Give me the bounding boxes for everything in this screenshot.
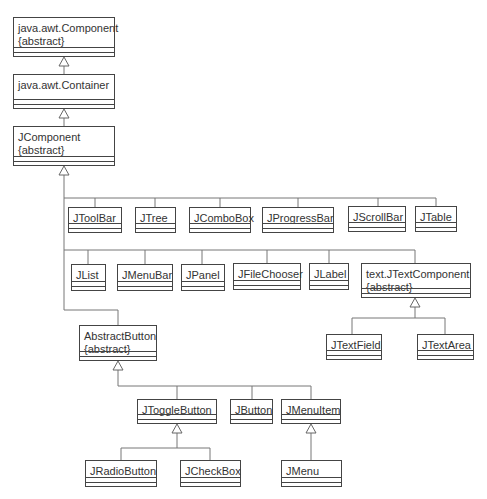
operations-divider xyxy=(349,227,405,228)
attributes-divider xyxy=(14,156,114,157)
operations-divider xyxy=(136,228,175,229)
inheritance-arrow-icon xyxy=(59,166,69,175)
operations-divider xyxy=(362,293,470,294)
class-box-jmenu: JMenu xyxy=(281,460,342,487)
class-name: JMenuItem xyxy=(286,404,338,417)
operations-divider xyxy=(416,227,456,228)
class-box-jcombobox: JComboBox xyxy=(189,207,251,233)
attributes-divider xyxy=(181,477,240,478)
inheritance-arrow-icon xyxy=(172,424,182,433)
class-name: java.awt.Component{abstract} xyxy=(18,22,112,48)
attributes-divider xyxy=(310,280,348,281)
operations-divider xyxy=(181,482,240,483)
operations-divider xyxy=(190,228,250,229)
class-name: JComponent{abstract} xyxy=(18,131,112,157)
attributes-divider xyxy=(263,223,333,224)
class-box-container: java.awt.Container xyxy=(13,74,115,109)
inheritance-arrow-icon xyxy=(410,298,420,307)
class-box-jscrollbar: JScrollBar xyxy=(348,206,406,232)
operations-divider xyxy=(86,482,156,483)
class-box-jfilechooser: JFileChooser xyxy=(233,263,301,290)
class-name: JButton xyxy=(235,404,270,417)
operations-divider xyxy=(14,104,114,105)
class-name: JToggleButton xyxy=(142,404,214,417)
operations-divider xyxy=(72,286,105,287)
class-name: text.JTextComponent{abstract} xyxy=(366,268,468,294)
operations-divider xyxy=(231,419,272,420)
attributes-divider xyxy=(138,414,216,415)
class-box-jradiobutton: JRadioButton xyxy=(85,460,157,487)
class-box-jtable: JTable xyxy=(415,206,457,232)
class-box-jtogglebutton: JToggleButton xyxy=(137,399,217,424)
operations-divider xyxy=(14,52,114,53)
class-box-jtree: JTree xyxy=(135,207,176,233)
operations-divider xyxy=(263,228,333,229)
attributes-divider xyxy=(69,223,121,224)
class-box-jtextcomponent: text.JTextComponent{abstract} xyxy=(361,263,471,298)
inheritance-arrow-icon xyxy=(59,109,69,118)
operations-divider xyxy=(69,228,121,229)
class-name: java.awt.Container xyxy=(18,79,112,92)
attributes-divider xyxy=(190,223,250,224)
class-box-jcheckbox: JCheckBox xyxy=(180,460,241,487)
attributes-divider xyxy=(86,477,156,478)
attributes-divider xyxy=(231,414,272,415)
attributes-divider xyxy=(118,281,172,282)
operations-divider xyxy=(327,355,381,356)
class-box-jprogressbar: JProgressBar xyxy=(262,207,334,233)
class-box-jcomponent: JComponent{abstract} xyxy=(13,126,115,166)
attributes-divider xyxy=(72,281,105,282)
operations-divider xyxy=(310,285,348,286)
operations-divider xyxy=(118,286,172,287)
attributes-divider xyxy=(418,350,473,351)
class-box-component: java.awt.Component{abstract} xyxy=(13,17,115,57)
attributes-divider xyxy=(282,414,340,415)
attributes-divider xyxy=(182,281,224,282)
attributes-divider xyxy=(362,288,470,289)
inheritance-arrow-icon xyxy=(113,361,123,370)
operations-divider xyxy=(138,419,216,420)
operations-divider xyxy=(14,161,114,162)
class-box-jtoolbar: JToolBar xyxy=(68,207,122,233)
operations-divider xyxy=(80,356,156,357)
operations-divider xyxy=(182,286,224,287)
class-box-jtextfield: JTextField xyxy=(326,334,382,360)
class-stereotype: {abstract} xyxy=(84,343,154,356)
operations-divider xyxy=(282,419,340,420)
operations-divider xyxy=(282,482,341,483)
inheritance-arrow-icon xyxy=(306,424,316,433)
attributes-divider xyxy=(14,99,114,100)
inheritance-arrow-icon xyxy=(59,57,69,66)
attributes-divider xyxy=(80,351,156,352)
class-box-jlabel: JLabel xyxy=(309,263,349,290)
class-box-jpanel: JPanel xyxy=(181,264,225,291)
class-box-jtextarea: JTextArea xyxy=(417,334,474,360)
attributes-divider xyxy=(234,280,300,281)
class-box-jlist: JList xyxy=(71,264,106,291)
class-name: AbstractButton{abstract} xyxy=(84,330,154,356)
attributes-divider xyxy=(416,222,456,223)
attributes-divider xyxy=(349,222,405,223)
attributes-divider xyxy=(327,350,381,351)
attributes-divider xyxy=(136,223,175,224)
operations-divider xyxy=(418,355,473,356)
class-box-abstractbutton: AbstractButton{abstract} xyxy=(79,325,157,361)
attributes-divider xyxy=(14,47,114,48)
class-box-jmenubar: JMenuBar xyxy=(117,264,173,291)
operations-divider xyxy=(234,285,300,286)
class-box-jbutton: JButton xyxy=(230,399,273,424)
attributes-divider xyxy=(282,477,341,478)
uml-diagram-canvas: java.awt.Component{abstract}java.awt.Con… xyxy=(0,0,487,499)
class-box-jmenuitem: JMenuItem xyxy=(281,399,341,424)
